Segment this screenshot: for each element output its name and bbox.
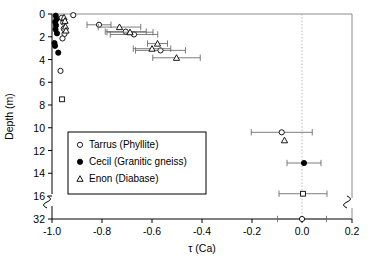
chart-figure: -1.0-0.8-0.6-0.4-0.20.00.202468101214163… (0, 0, 373, 271)
x-tick-label: 0.2 (345, 225, 360, 237)
data-point-open-circle (299, 216, 304, 221)
y-tick-label: 0 (39, 8, 45, 20)
y-tick-label: 32 (33, 213, 45, 225)
x-axis-break-icon (344, 196, 351, 208)
x-tick-label: -1.0 (43, 225, 61, 237)
y-tick-label: 4 (39, 54, 45, 66)
data-point-open-triangle (281, 137, 287, 143)
y-tick-label: 14 (33, 167, 45, 179)
data-point-open-circle (77, 142, 82, 147)
data-point-open-square (301, 191, 306, 196)
legend-item: Enon (Diabase) (77, 173, 159, 184)
y-tick-label: 2 (39, 31, 45, 43)
series-enon-diabase (61, 14, 288, 142)
legend-item-label: Enon (Diabase) (89, 173, 158, 184)
y-axis-title: Depth (m) (3, 93, 15, 140)
legend-item-label: Tarrus (Phyllite) (89, 139, 158, 150)
x-tick-label: 0.0 (295, 225, 310, 237)
x-tick-label: -0.4 (193, 225, 211, 237)
x-axis-title: τ (Ca) (188, 242, 215, 254)
data-point-open-circle (71, 13, 76, 18)
data-point-open-circle (60, 36, 65, 41)
x-tick-label: -0.8 (93, 225, 111, 237)
y-tick-label: 12 (33, 145, 45, 157)
data-point-filled-circle (52, 43, 57, 48)
data-point-open-circle (96, 22, 101, 27)
legend-item: Tarrus (Phyllite) (77, 139, 158, 150)
y-tick-label: 6 (39, 76, 45, 88)
x-tick-label: -0.6 (143, 225, 161, 237)
data-point-filled-circle (54, 31, 59, 36)
x-tick-label: -0.2 (243, 225, 261, 237)
legend-item-label: Cecil (Granitic gneiss) (89, 156, 187, 167)
y-tick-label: 16 (33, 190, 45, 202)
data-point-open-circle (58, 68, 63, 73)
data-point-filled-circle (301, 160, 306, 165)
scatter-plot: -1.0-0.8-0.6-0.4-0.20.00.202468101214163… (0, 0, 373, 271)
y-tick-label: 8 (39, 99, 45, 111)
legend-item: Cecil (Granitic gneiss) (77, 156, 186, 167)
data-point-open-circle (279, 130, 284, 135)
data-point-filled-circle (56, 50, 61, 55)
data-point-open-square (60, 97, 65, 102)
data-point-filled-circle (77, 159, 82, 164)
y-tick-label: 10 (33, 122, 45, 134)
